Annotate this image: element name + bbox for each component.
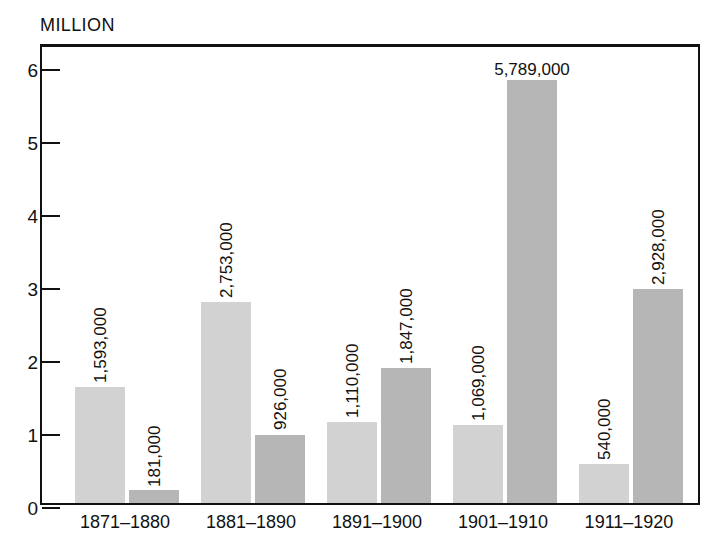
x-axis-label-2: 1891–1900 bbox=[332, 513, 422, 531]
bar-g4-s0[interactable] bbox=[579, 464, 629, 503]
bar-value-g4-s0: 540,000 bbox=[596, 399, 613, 460]
y-tick-mark-0 bbox=[42, 507, 60, 509]
bar-g3-s0[interactable] bbox=[453, 425, 503, 503]
bar-g4-s1[interactable] bbox=[633, 289, 683, 503]
y-axis-unit-label: MILLION bbox=[40, 15, 115, 36]
y-tick-label-4: 4 bbox=[8, 207, 38, 226]
bar-value-g2-s1: 1,847,000 bbox=[398, 288, 415, 364]
x-axis-label-1: 1881–1890 bbox=[206, 513, 296, 531]
bar-g2-s1[interactable] bbox=[381, 368, 431, 503]
bar-value-g2-s0: 1,110,000 bbox=[344, 344, 361, 418]
bar-value-g4-s1: 2,928,000 bbox=[650, 209, 667, 285]
y-tick-label-5: 5 bbox=[8, 134, 38, 153]
bar-g1-s0[interactable] bbox=[201, 302, 251, 503]
bar-value-g1-s0: 2,753,000 bbox=[218, 222, 235, 298]
bar-g0-s0[interactable] bbox=[75, 387, 125, 503]
bar-value-g1-s1: 926,000 bbox=[272, 369, 289, 430]
y-tick-label-2: 2 bbox=[8, 353, 38, 372]
bar-value-g0-s1: 181,000 bbox=[146, 426, 163, 487]
plot-area: 1,593,000 181,000 2,753,000 926,000 1,11… bbox=[42, 47, 698, 503]
bar-value-g3-s1: 5,789,000 bbox=[494, 61, 570, 78]
x-axis-label-4: 1911–1920 bbox=[585, 513, 674, 531]
y-tick-label-3: 3 bbox=[8, 280, 38, 299]
bar-g0-s1[interactable] bbox=[129, 490, 179, 503]
y-tick-label-0: 0 bbox=[8, 499, 38, 518]
x-axis-label-3: 1901–1910 bbox=[458, 513, 548, 531]
bar-g2-s0[interactable] bbox=[327, 422, 377, 503]
bar-g1-s1[interactable] bbox=[255, 435, 305, 503]
bar-value-g0-s0: 1,593,000 bbox=[92, 307, 109, 383]
bar-chart: MILLION 0 1 2 3 4 5 6 bbox=[0, 0, 723, 549]
plot-frame: 0 1 2 3 4 5 6 bbox=[40, 44, 700, 505]
bar-g3-s1[interactable] bbox=[507, 80, 557, 503]
bar-value-g3-s0: 1,069,000 bbox=[470, 345, 487, 421]
y-tick-label-1: 1 bbox=[8, 426, 38, 445]
x-axis-label-0: 1871–1880 bbox=[80, 513, 170, 531]
y-tick-label-6: 6 bbox=[8, 61, 38, 80]
